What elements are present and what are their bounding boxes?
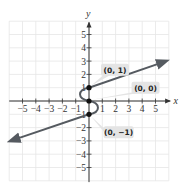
graph: xy −5−4−3−2−11234554321−1−2−3−4−5 (0, 1)… [0, 0, 186, 191]
x-tick-label: −5 [17, 104, 27, 114]
x-tick-label: 5 [153, 104, 158, 114]
y-tick-label: −4 [76, 150, 86, 160]
x-tick-label: −3 [44, 104, 54, 114]
point-callout: (0, −1) [86, 112, 133, 139]
x-tick-label: −2 [57, 104, 67, 114]
y-axis-label: y [85, 8, 91, 19]
point-marker [86, 112, 91, 117]
y-tick-label: −5 [76, 163, 86, 173]
x-axis-label: x [172, 95, 178, 106]
y-tick-label: −2 [76, 123, 86, 133]
y-tick-label: −3 [76, 136, 86, 146]
x-tick-label: 2 [113, 104, 118, 114]
point-label: (0, −1) [104, 128, 133, 137]
x-tick-label: 1 [100, 104, 105, 114]
point-marker [86, 98, 91, 103]
point-label: (0, 1) [104, 66, 127, 75]
point-marker [86, 85, 91, 90]
y-tick-label: 5 [81, 30, 86, 40]
x-tick-label: 3 [127, 104, 132, 114]
x-tick-label: −4 [31, 104, 41, 114]
y-tick-label: 4 [81, 43, 86, 53]
y-tick-label: 2 [81, 70, 86, 80]
y-tick-label: 3 [81, 57, 86, 67]
point-label: (0, 0) [134, 84, 157, 93]
x-tick-label: 4 [140, 104, 145, 114]
